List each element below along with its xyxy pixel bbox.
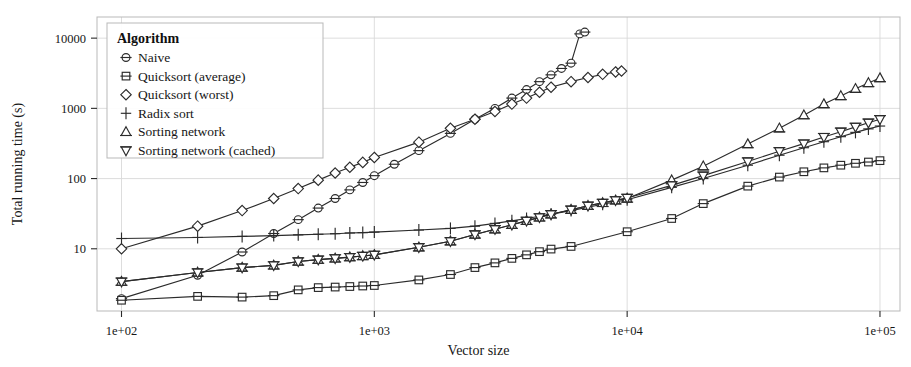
x-tick-label: 1e+02 xyxy=(106,324,137,338)
legend-item-label: Radix sort xyxy=(138,106,194,121)
x-tick-label: 1e+05 xyxy=(864,324,895,338)
x-tick-label: 1e+03 xyxy=(359,324,390,338)
legend-item-label: Sorting network xyxy=(138,124,226,139)
y-tick-label: 10 xyxy=(74,242,87,256)
y-tick-label: 1000 xyxy=(61,102,86,116)
legend-item-label: Quicksort (average) xyxy=(138,69,246,84)
legend-item-quicksort-worst[interactable]: Quicksort (worst) xyxy=(121,87,234,102)
legend-item-label: Sorting network (cached) xyxy=(138,143,275,158)
x-axis-title: Vector size xyxy=(448,343,510,358)
legend-item-label: Quicksort (worst) xyxy=(138,87,234,102)
y-axis-title: Total running time (s) xyxy=(10,103,26,226)
chart-figure: 1e+021e+031e+041e+0510100100010000Vector… xyxy=(0,0,911,367)
y-tick-label: 10000 xyxy=(55,32,86,46)
chart-canvas: 1e+021e+031e+041e+0510100100010000Vector… xyxy=(0,0,911,367)
legend-item-sorting-network-cached[interactable]: Sorting network (cached) xyxy=(120,143,275,158)
y-tick-label: 100 xyxy=(67,172,86,186)
legend-title: Algorithm xyxy=(117,31,180,46)
legend-item-label: Naive xyxy=(138,50,170,65)
x-tick-label: 1e+04 xyxy=(611,324,643,338)
legend: AlgorithmNaiveQuicksort (average)Quickso… xyxy=(107,23,323,158)
legend-item-quicksort-average[interactable]: Quicksort (average) xyxy=(120,69,245,84)
